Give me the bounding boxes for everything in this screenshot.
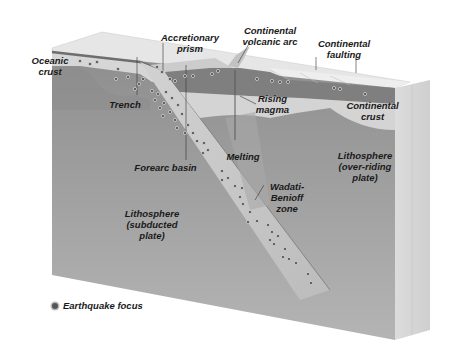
legend-earthquake-focus: Earthquake focus	[63, 300, 143, 311]
earthquake-focus-icon	[52, 303, 58, 309]
label-accretionary-prism: Accretionary prism	[150, 32, 230, 54]
label-continental-crust: Continental crust	[335, 100, 410, 122]
label-rising-magma: Rising magma	[245, 93, 300, 115]
label-forearc-basin: Forearc basin	[128, 162, 203, 173]
legend: Earthquake focus	[52, 300, 143, 311]
label-lithosphere-subducted: Lithosphere (subducted plate)	[117, 208, 187, 241]
label-wadati-benioff-zone: Wadati- Benioff zone	[262, 181, 312, 214]
label-continental-faulting: Continental faulting	[304, 38, 384, 60]
label-oceanic-crust: Oceanic crust	[20, 55, 80, 77]
label-continental-volcanic-arc: Continental volcanic arc	[225, 25, 315, 47]
label-melting: Melting	[218, 151, 268, 162]
label-trench: Trench	[100, 99, 150, 110]
label-lithosphere-overriding: Lithosphere (over-riding plate)	[325, 150, 405, 183]
